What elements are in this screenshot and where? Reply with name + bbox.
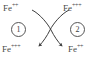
arrow-reduction-path [39, 10, 69, 46]
arrow-oxidation-path [32, 10, 62, 46]
redox-cycle-diagram: Fe++ Fe+++ Fe+++ Fe++ 1 2 [0, 0, 101, 59]
crossing-arrows-group [0, 0, 101, 59]
